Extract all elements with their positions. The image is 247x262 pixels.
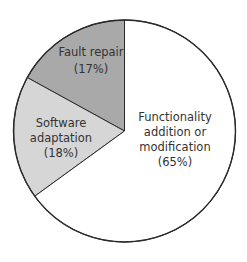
- functionality-label-1: Functionality: [138, 110, 212, 124]
- software-adaptation-label-2: adaptation: [30, 131, 92, 145]
- fault-repair-label: Fault repair: [58, 45, 123, 59]
- functionality-percent: (65%): [158, 155, 193, 169]
- functionality-label-3: modification: [139, 140, 210, 154]
- functionality-label-2: addition or: [144, 125, 207, 139]
- software-adaptation-percent: (18%): [44, 146, 79, 160]
- software-adaptation-label-1: Software: [36, 116, 87, 130]
- fault-repair-percent: (17%): [74, 62, 109, 76]
- pie-chart: Fault repair (17%) Software adaptation (…: [0, 0, 247, 262]
